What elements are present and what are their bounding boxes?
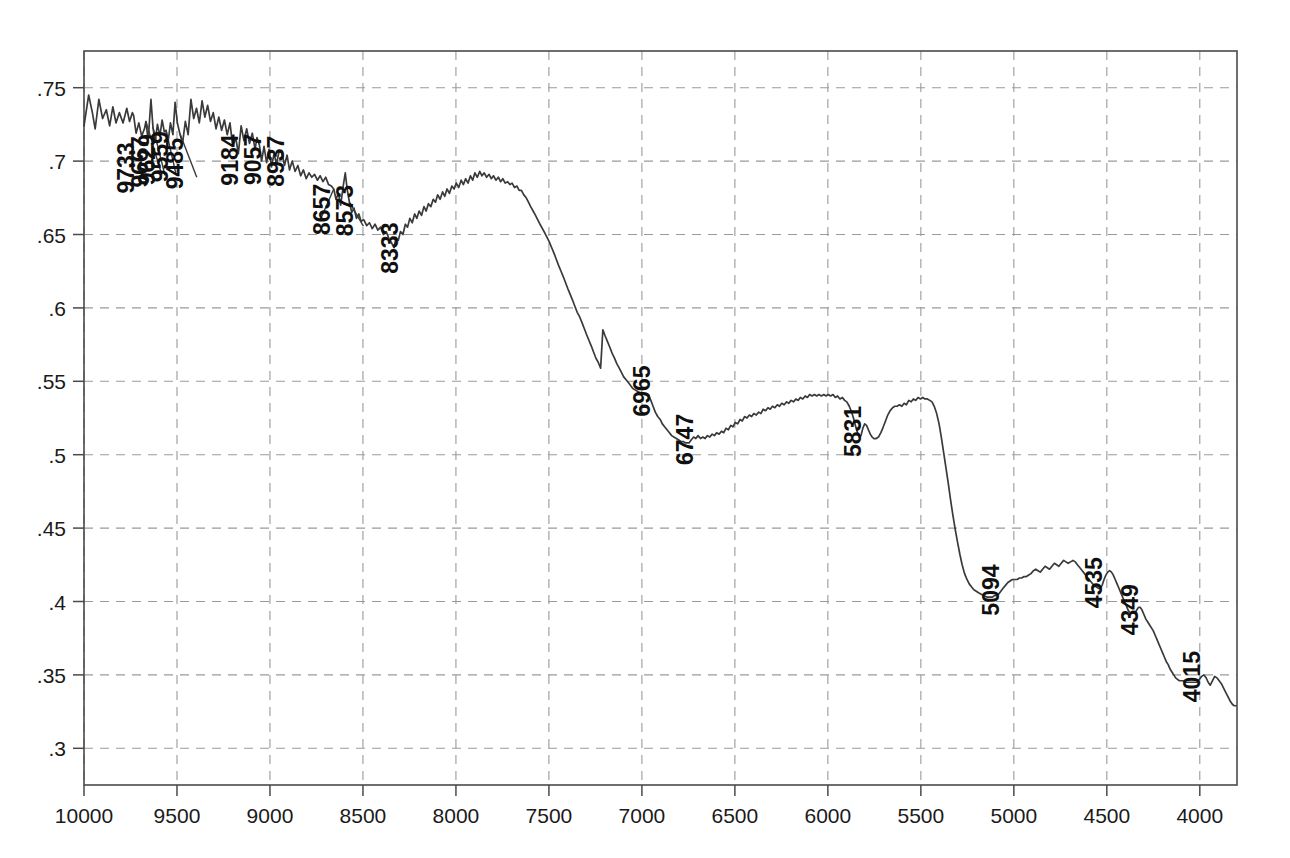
peak-label: 4349 bbox=[1117, 584, 1143, 635]
peak-label: 4535 bbox=[1081, 557, 1107, 608]
x-tick-label: 4500 bbox=[1083, 804, 1130, 827]
y-tick-label: .4 bbox=[48, 591, 66, 614]
y-tick-label: .5 bbox=[48, 444, 66, 467]
peak-label: 9184 bbox=[217, 134, 243, 185]
y-tick-label: .3 bbox=[48, 737, 66, 760]
y-tick-label: .55 bbox=[37, 370, 66, 393]
x-tick-label: 10000 bbox=[55, 804, 113, 827]
spectrum-line bbox=[84, 95, 1236, 706]
peak-label: 6747 bbox=[672, 414, 698, 465]
y-tick-label: .65 bbox=[37, 224, 66, 247]
peak-label: 8573 bbox=[332, 185, 358, 236]
peak-label: 4015 bbox=[1179, 651, 1205, 702]
peak-annotations: 9733966796299559948591849057893786578573… bbox=[113, 121, 1205, 702]
axis-ticks: 1000095009000850080007500700065006000550… bbox=[37, 77, 1223, 827]
y-tick-label: .75 bbox=[37, 77, 66, 100]
peak-label: 5094 bbox=[978, 564, 1004, 615]
y-tick-label: .7 bbox=[48, 150, 66, 173]
x-tick-label: 8500 bbox=[340, 804, 387, 827]
y-tick-label: .45 bbox=[37, 517, 66, 540]
x-tick-label: 6500 bbox=[712, 804, 759, 827]
chart-canvas: 1000095009000850080007500700065006000550… bbox=[0, 0, 1290, 858]
series-group bbox=[84, 95, 1236, 706]
x-tick-label: 4000 bbox=[1176, 804, 1223, 827]
x-tick-label: 8000 bbox=[433, 804, 480, 827]
y-tick-label: .35 bbox=[37, 664, 66, 687]
peak-label: 8657 bbox=[309, 184, 335, 235]
x-tick-label: 6000 bbox=[805, 804, 852, 827]
x-tick-label: 5500 bbox=[897, 804, 944, 827]
peak-label: 6965 bbox=[629, 365, 655, 416]
x-tick-label: 7000 bbox=[619, 804, 666, 827]
peak-label: 8937 bbox=[263, 136, 289, 187]
peak-label: 9485 bbox=[162, 138, 188, 189]
x-tick-label: 5000 bbox=[990, 804, 1037, 827]
peak-label: 5831 bbox=[840, 406, 866, 457]
x-tick-label: 9000 bbox=[247, 804, 294, 827]
x-tick-label: 9500 bbox=[154, 804, 201, 827]
spectrum-chart: 1000095009000850080007500700065006000550… bbox=[0, 0, 1290, 858]
peak-label: 8333 bbox=[377, 223, 403, 274]
y-tick-label: .6 bbox=[48, 297, 66, 320]
x-tick-label: 7500 bbox=[526, 804, 573, 827]
